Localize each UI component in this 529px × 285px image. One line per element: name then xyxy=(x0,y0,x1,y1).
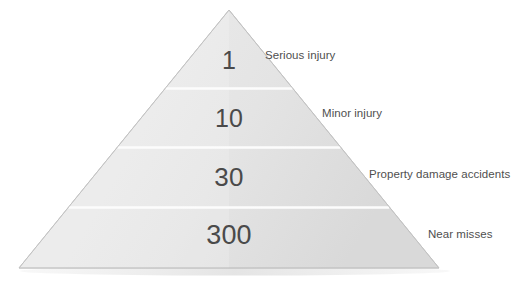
accident-pyramid-diagram: 1 10 30 300 Serious injury Minor injury … xyxy=(0,0,529,285)
tier-value-near-misses: 300 xyxy=(206,220,252,251)
tier-label-minor-injury: Minor injury xyxy=(322,107,382,119)
tier-label-property-damage: Property damage accidents xyxy=(369,168,510,180)
tier-value-serious-injury: 1 xyxy=(222,46,236,75)
tier-value-minor-injury: 10 xyxy=(215,104,243,133)
tier-value-property-damage: 30 xyxy=(214,162,243,193)
pyramid-graphic xyxy=(0,0,529,285)
tier-label-near-misses: Near misses xyxy=(428,228,492,240)
tier-label-serious-injury: Serious injury xyxy=(265,49,335,61)
